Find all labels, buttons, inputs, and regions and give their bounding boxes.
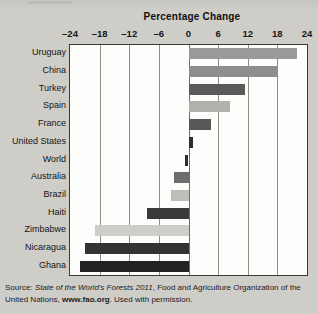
- source-caption: Source: State of the World's Forests 201…: [5, 282, 311, 305]
- chart-title: Percentage Change: [72, 11, 312, 22]
- bar-row: [70, 48, 307, 59]
- forest-area-percentage-change-figure: Percentage Change –24–18–12–606121824 Ur…: [0, 0, 318, 314]
- category-label-turkey: Turkey: [0, 84, 66, 93]
- bar-row: [70, 84, 307, 95]
- x-tick-neg24: –24: [62, 28, 78, 39]
- x-tick-neg12: –12: [121, 28, 137, 39]
- bar-nicaragua: [85, 243, 189, 254]
- bar-row: [70, 101, 307, 112]
- category-axis-labels: UruguayChinaTurkeySpainFranceUnited Stat…: [0, 44, 66, 276]
- bar-world: [185, 155, 189, 166]
- bar-united-states: [189, 137, 194, 148]
- source-prefix: Source:: [5, 283, 35, 292]
- category-label-united-states: United States: [0, 137, 66, 146]
- bar-spain: [189, 101, 231, 112]
- bar-china: [189, 66, 278, 77]
- bar-brazil: [171, 190, 188, 201]
- bar-row: [70, 225, 307, 236]
- bar-row: [70, 119, 307, 130]
- bar-ghana: [80, 261, 189, 272]
- category-label-uruguay: Uruguay: [0, 48, 66, 57]
- bar-row: [70, 172, 307, 183]
- category-label-zimbabwe: Zimbabwe: [0, 225, 66, 234]
- bar-australia: [174, 172, 189, 183]
- bar-row: [70, 208, 307, 219]
- x-tick-6: 6: [215, 28, 220, 39]
- bar-row: [70, 137, 307, 148]
- x-tick-12: 12: [242, 28, 253, 39]
- bar-haiti: [147, 208, 189, 219]
- bar-row: [70, 243, 307, 254]
- x-tick-0: 0: [186, 28, 191, 39]
- category-label-nicaragua: Nicaragua: [0, 243, 66, 252]
- source-url: www.fao.org: [62, 295, 110, 304]
- bar-uruguay: [189, 48, 298, 59]
- x-tick-18: 18: [272, 28, 283, 39]
- category-label-france: France: [0, 119, 66, 128]
- bar-row: [70, 261, 307, 272]
- x-tick-24: 24: [302, 28, 313, 39]
- category-label-china: China: [0, 66, 66, 75]
- bar-series: [70, 45, 307, 275]
- category-label-haiti: Haiti: [0, 208, 66, 217]
- bar-row: [70, 155, 307, 166]
- category-label-world: World: [0, 155, 66, 164]
- category-label-brazil: Brazil: [0, 190, 66, 199]
- category-label-ghana: Ghana: [0, 261, 66, 270]
- plot-area: [69, 44, 308, 276]
- source-publication-title: State of the World's Forests 2011: [35, 283, 153, 292]
- x-tick-neg6: –6: [154, 28, 165, 39]
- bar-turkey: [189, 84, 246, 95]
- x-tick-neg18: –18: [92, 28, 108, 39]
- bar-france: [189, 119, 211, 130]
- source-suffix: . Used with permission.: [110, 295, 193, 304]
- bar-row: [70, 190, 307, 201]
- bar-row: [70, 66, 307, 77]
- x-axis-tick-labels: –24–18–12–606121824: [0, 28, 318, 42]
- category-label-spain: Spain: [0, 101, 66, 110]
- bar-zimbabwe: [95, 225, 189, 236]
- category-label-australia: Australia: [0, 172, 66, 181]
